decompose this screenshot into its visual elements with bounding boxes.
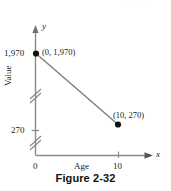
data-point-10-270 (115, 121, 121, 127)
y-tick-label-1970: 1,970 (4, 49, 24, 58)
y-axis-variable-label: y (42, 22, 46, 31)
data-point-0-1970 (33, 50, 39, 56)
y-tick-label-270: 270 (11, 126, 25, 135)
annotation-point-a: (0, 1,970) (42, 48, 75, 57)
x-axis-variable-label: x (156, 150, 160, 159)
y-axis-title: Value (4, 66, 13, 87)
figure-2-32: ‾ ‾ ‾ ‾ y x 1,970 270 (0, 0, 171, 191)
data-line (36, 54, 118, 125)
annotation-point-b: (10, 270) (113, 111, 144, 120)
x-axis-arrowhead (145, 152, 154, 158)
y-axis-arrowhead (32, 25, 38, 33)
x-tick-label-10: 10 (113, 162, 122, 171)
x-axis-title: Age (74, 162, 89, 171)
figure-caption: Figure 2-32 (0, 172, 171, 184)
x-tick-label-0: 0 (33, 162, 38, 171)
